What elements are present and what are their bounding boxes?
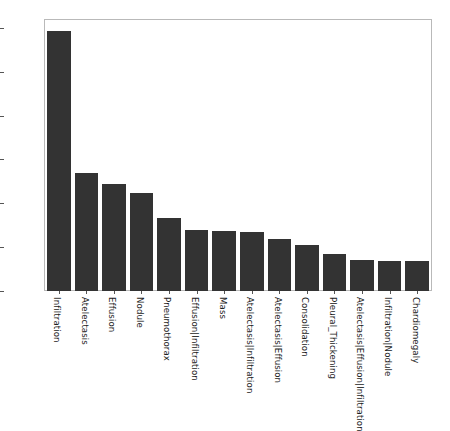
y-axis-tick-mark	[0, 203, 4, 204]
x-axis-tick-label: Effusion|Infiltration	[190, 297, 200, 381]
x-axis-tick-mark	[252, 291, 253, 294]
x-axis-tick-label: Pleural_Thickening	[328, 297, 338, 379]
bar	[102, 184, 126, 291]
x-axis-tick-mark	[417, 291, 418, 294]
x-axis-tick-label: Atelectasis	[80, 297, 90, 345]
x-axis-tick-label: Atelectasis|Effusion	[273, 297, 283, 383]
x-axis-tick-mark	[141, 291, 142, 294]
y-axis-tick-mark	[0, 159, 4, 160]
x-axis-tick-label: Atelectasis|Effusion|Infiltration	[355, 297, 365, 431]
y-axis-tick-mark	[0, 291, 4, 292]
bar	[405, 261, 429, 291]
x-axis-tick-mark	[197, 291, 198, 294]
x-axis-tick-label: Mass	[218, 297, 228, 319]
bar	[295, 245, 319, 291]
bar	[185, 230, 209, 291]
bar	[75, 173, 99, 291]
x-axis-tick-label: Nodule	[135, 297, 145, 328]
bar	[378, 261, 402, 291]
x-axis-tick-mark	[362, 291, 363, 294]
x-axis-tick-label: Pneumothorax	[162, 297, 172, 361]
bar	[212, 231, 236, 291]
x-axis-tick-mark	[169, 291, 170, 294]
bar	[268, 239, 292, 291]
bar	[157, 218, 181, 291]
x-axis-tick-labels: InfiltrationAtelectasisEffusionNodulePne…	[45, 294, 431, 431]
bar	[47, 31, 71, 291]
x-axis-tick-label: Infiltration	[52, 297, 62, 343]
x-axis-tick-mark	[114, 291, 115, 294]
x-axis-tick-mark	[334, 291, 335, 294]
y-axis-tick-mark	[0, 247, 4, 248]
x-axis-tick-label: Effusion	[107, 297, 117, 332]
y-axis-tick-mark	[0, 28, 4, 29]
x-axis-tick-label: Consolidation	[300, 297, 310, 357]
x-axis-tick-mark	[59, 291, 60, 294]
bar	[350, 260, 374, 291]
x-axis-tick-label: Chardiomegaly	[411, 297, 421, 363]
x-axis-tick-mark	[86, 291, 87, 294]
x-axis-tick-label: Infiltration|Nodule	[383, 297, 393, 376]
bar	[130, 193, 154, 291]
y-axis: 0100020003000400050006000	[0, 0, 44, 431]
y-axis-tick-mark	[0, 116, 4, 117]
x-axis-tick-mark	[307, 291, 308, 294]
x-axis-tick-label: Atelectasis|Infiltration	[245, 297, 255, 393]
x-axis-tick-mark	[224, 291, 225, 294]
bar-series	[45, 20, 431, 291]
x-axis-tick-mark	[390, 291, 391, 294]
bar	[323, 254, 347, 291]
y-axis-tick-mark	[0, 72, 4, 73]
x-axis-tick-mark	[279, 291, 280, 294]
bar-chart-figure: 0100020003000400050006000 InfiltrationAt…	[0, 0, 450, 431]
bar	[240, 232, 264, 291]
